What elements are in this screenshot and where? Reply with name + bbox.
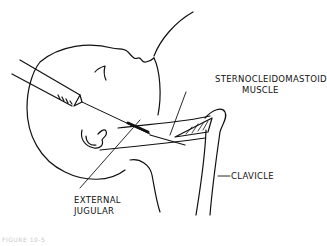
figure-caption: FIGURE 10-5 bbox=[2, 236, 45, 243]
scm-leader bbox=[170, 92, 186, 135]
eye bbox=[95, 66, 106, 80]
label-muscle: MUSCLE bbox=[242, 86, 279, 95]
label-sternocleidomastoid: STERNOCLEIDOMASTOID bbox=[215, 75, 327, 84]
shoulder-lower bbox=[130, 160, 160, 212]
shoulder-arc bbox=[154, 12, 193, 56]
label-clavicle: CLAVICLE bbox=[231, 172, 274, 181]
label-jugular: JUGULAR bbox=[74, 207, 114, 216]
face-contour bbox=[154, 58, 160, 115]
syringe-tip bbox=[74, 95, 82, 106]
label-external: EXTERNAL bbox=[74, 196, 121, 205]
clavicle bbox=[196, 109, 226, 215]
ear-inner bbox=[86, 136, 96, 145]
syringe-barrel-bottom bbox=[12, 74, 72, 106]
neck-line-2 bbox=[100, 138, 205, 150]
